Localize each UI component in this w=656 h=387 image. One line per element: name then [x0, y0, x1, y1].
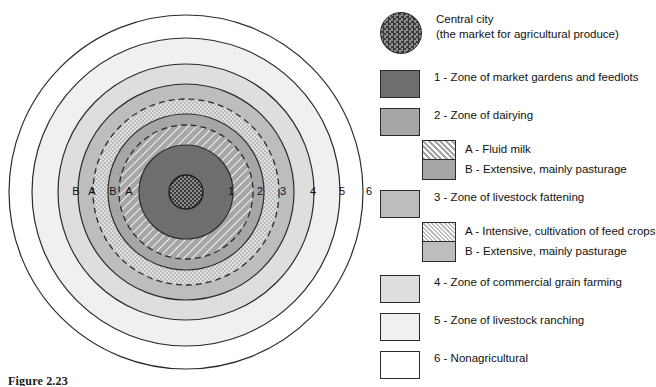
legend: Central city (the market for agricultura…	[378, 0, 642, 387]
legend-swatch-zone-3a-stipple	[422, 222, 456, 242]
legend-label-central-city: Central city (the market for agricultura…	[422, 12, 619, 41]
legend-swatch-zone-1	[380, 70, 420, 98]
figure-caption: Figure 2.23	[8, 374, 68, 386]
ring-label-3b: B	[72, 185, 79, 197]
ring-label-6: 6	[366, 185, 372, 197]
legend-label-zone-1: 1 - Zone of market gardens and feedlots	[420, 70, 639, 84]
legend-swatch-zone-2b-solid	[422, 160, 456, 180]
legend-label-zone-5: 5 - Zone of livestock ranching	[420, 313, 584, 327]
legend-label-central-city-line1: Central city	[436, 13, 494, 25]
ring-label-2b: B	[109, 185, 116, 197]
legend-item-central-city[interactable]: Central city (the market for agricultura…	[380, 12, 619, 54]
legend-item-zone-2[interactable]: 2 - Zone of dairying	[380, 108, 533, 136]
legend-label-zone-3a: A - Intensive, cultivation of feed crops	[465, 225, 656, 237]
legend-label-zone-6: 6 - Nonagricultural	[420, 351, 528, 365]
legend-swatch-zone-3b-solid	[422, 242, 456, 262]
legend-label-zone-4: 4 - Zone of commercial grain farming	[420, 275, 622, 289]
legend-swatch-zone-5	[380, 313, 420, 341]
ring-label-3: 3	[280, 185, 286, 197]
ring-label-2a: A	[125, 185, 133, 197]
ring-label-3a: A	[88, 185, 96, 197]
von-thunen-diagram: B A B A 1 2 3 4 5 6	[0, 0, 380, 387]
legend-item-zone-3-sub[interactable]: A - Intensive, cultivation of feed crops…	[422, 222, 656, 262]
legend-swatch-central-city	[380, 12, 422, 54]
legend-swatch-zone-2a-hatch	[422, 140, 456, 160]
ring-label-2: 2	[257, 185, 263, 197]
ring-label-5: 5	[339, 185, 345, 197]
legend-item-zone-4[interactable]: 4 - Zone of commercial grain farming	[380, 275, 622, 303]
legend-label-zone-2b: B - Extensive, mainly pasturage	[465, 157, 627, 177]
central-city-circle	[169, 175, 203, 209]
legend-item-zone-5[interactable]: 5 - Zone of livestock ranching	[380, 313, 584, 341]
legend-swatch-zone-6	[380, 351, 420, 379]
ring-label-4: 4	[310, 185, 316, 197]
legend-swatch-zone-4	[380, 275, 420, 303]
legend-swatch-zone-3	[380, 190, 420, 218]
legend-label-zone-2: 2 - Zone of dairying	[420, 108, 533, 122]
legend-swatch-zone-2	[380, 108, 420, 136]
legend-item-zone-6[interactable]: 6 - Nonagricultural	[380, 351, 528, 379]
legend-item-zone-2-sub[interactable]: A - Fluid milk B - Extensive, mainly pas…	[422, 140, 627, 180]
legend-label-zone-2a: A - Fluid milk	[465, 143, 531, 155]
legend-item-zone-1[interactable]: 1 - Zone of market gardens and feedlots	[380, 70, 639, 98]
legend-label-zone-3b: B - Extensive, mainly pasturage	[465, 239, 627, 259]
legend-label-zone-3-sub: A - Intensive, cultivation of feed crops…	[456, 222, 656, 258]
legend-label-central-city-line2: (the market for agricultural produce)	[436, 28, 619, 40]
legend-label-zone-3: 3 - Zone of livestock fattening	[420, 190, 584, 204]
concentric-zones-svg: B A B A 1 2 3 4 5 6	[0, 0, 380, 387]
legend-item-zone-3[interactable]: 3 - Zone of livestock fattening	[380, 190, 584, 218]
ring-label-1: 1	[228, 185, 234, 197]
legend-label-zone-2-sub: A - Fluid milk B - Extensive, mainly pas…	[456, 140, 627, 176]
legend-swatch-zone-2-sub	[422, 140, 456, 180]
legend-swatch-zone-3-sub	[422, 222, 456, 262]
